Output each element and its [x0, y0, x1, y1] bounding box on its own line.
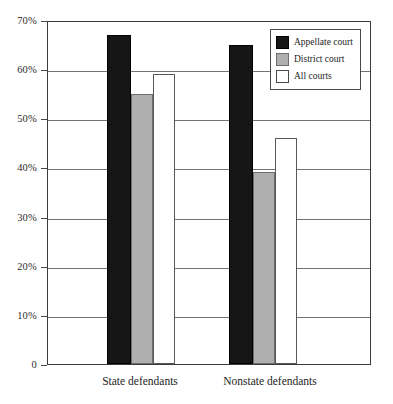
legend-item-all-courts: All courts — [276, 68, 356, 85]
x-axis-label-nonstate-defendants: Nonstate defendants — [196, 376, 344, 388]
legend-label-district-court: District court — [294, 55, 344, 65]
y-axis-label-40: 40% — [17, 163, 37, 174]
gridline-10 — [48, 317, 370, 318]
white-square-swatch-icon — [276, 70, 289, 83]
legend-item-district-court: District court — [276, 51, 356, 68]
bar-nonstate-defendants-district-court — [253, 172, 275, 364]
gridline-50 — [48, 120, 370, 121]
bar-nonstate-defendants-all-courts — [275, 138, 297, 364]
gridline-30 — [48, 219, 370, 220]
y-axis-label-30: 30% — [17, 213, 37, 224]
y-axis-label-70: 70% — [17, 16, 37, 27]
y-axis-label-60: 60% — [17, 65, 37, 76]
legend-label-all-courts: All courts — [294, 72, 332, 82]
legend: Appellate court District court All court… — [270, 29, 361, 90]
gridline-40 — [48, 169, 370, 170]
bar-state-defendants-all-courts — [153, 74, 175, 364]
y-axis-label-20: 20% — [17, 262, 37, 273]
y-axis-label-10: 10% — [17, 311, 37, 322]
legend-label-appellate-court: Appellate court — [294, 38, 353, 48]
plot-area: Appellate court District court All court… — [47, 21, 371, 365]
x-axis-label-state-defendants: State defendants — [76, 376, 204, 388]
y-axis-tick-0 — [41, 365, 47, 366]
bar-state-defendants-appellate-court — [107, 35, 131, 364]
bar-chart: 70% 60% 50% 40% 30% 20% 10% 0 — [0, 0, 393, 404]
gray-square-swatch-icon — [276, 53, 289, 66]
bar-nonstate-defendants-appellate-court — [229, 45, 253, 364]
bar-state-defendants-district-court — [131, 94, 153, 364]
y-axis-label-50: 50% — [17, 114, 37, 125]
legend-item-appellate-court: Appellate court — [276, 34, 356, 51]
gridline-20 — [48, 268, 370, 269]
y-axis-label-0: 0 — [32, 360, 37, 371]
black-square-swatch-icon — [276, 36, 289, 49]
